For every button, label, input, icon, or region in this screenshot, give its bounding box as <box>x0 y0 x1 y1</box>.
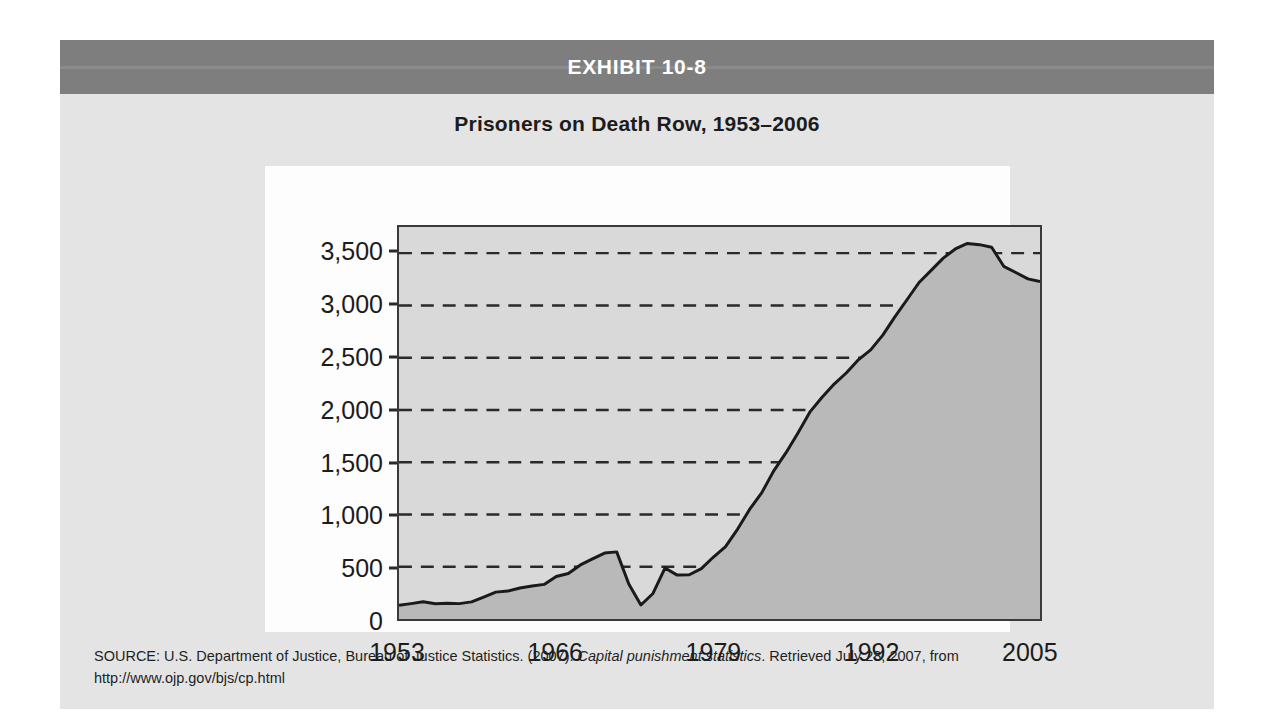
series-area-fill <box>399 243 1040 619</box>
y-tick-label-3,500: 3,500 <box>320 237 383 266</box>
y-tick-mark-3,500 <box>389 250 397 253</box>
plot-wrapper: 05001,0001,5002,0002,5003,0003,500 19531… <box>397 225 1042 621</box>
y-tick-label-3,000: 3,000 <box>320 290 383 319</box>
area-chart-svg <box>399 227 1040 619</box>
source-italic-title: Capital punishment statistics <box>578 648 762 664</box>
y-tick-mark-2,500 <box>389 355 397 358</box>
y-tick-mark-1,000 <box>389 514 397 517</box>
y-tick-label-1,500: 1,500 <box>320 448 383 477</box>
exhibit-panel: EXHIBIT 10-8 Prisoners on Death Row, 195… <box>60 40 1214 709</box>
source-prefix: SOURCE: U.S. Department of Justice, Bure… <box>94 648 578 664</box>
y-tick-mark-2,000 <box>389 408 397 411</box>
chart-card: 05001,0001,5002,0002,5003,0003,500 19531… <box>265 166 1010 632</box>
y-tick-label-2,500: 2,500 <box>320 342 383 371</box>
page-root: EXHIBIT 10-8 Prisoners on Death Row, 195… <box>0 0 1271 728</box>
y-tick-label-1,000: 1,000 <box>320 501 383 530</box>
y-tick-mark-500 <box>389 567 397 570</box>
y-tick-label-0: 0 <box>369 607 383 636</box>
source-note: SOURCE: U.S. Department of Justice, Bure… <box>94 645 1184 690</box>
y-tick-mark-1,500 <box>389 461 397 464</box>
y-tick-label-2,000: 2,000 <box>320 395 383 424</box>
plot-area <box>397 225 1042 621</box>
exhibit-header-bar: EXHIBIT 10-8 <box>60 40 1214 94</box>
source-suffix: . Retrieved July 28, 2007, from <box>761 648 958 664</box>
source-url: http://www.ojp.gov/bjs/cp.html <box>94 670 285 686</box>
y-tick-label-500: 500 <box>341 554 383 583</box>
exhibit-number-label: EXHIBIT 10-8 <box>567 55 706 79</box>
chart-title: Prisoners on Death Row, 1953–2006 <box>60 112 1214 136</box>
y-tick-mark-3,000 <box>389 303 397 306</box>
